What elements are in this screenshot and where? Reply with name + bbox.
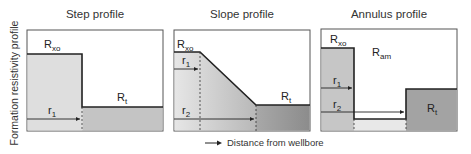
slope-profile-panel: Rxo Rt r1 r2 xyxy=(174,30,310,131)
resistivity-profiles-diagram: Rxo Rt r1 Rxo Rt r1 r2 Rxo Ram Rt r1 r2 xyxy=(0,0,471,154)
annulus-profile-panel: Rxo Ram Rt r1 r2 xyxy=(321,29,457,131)
arrow-right-icon xyxy=(205,140,223,146)
step-profile-panel: Rxo Rt r1 xyxy=(27,30,163,131)
x-axis-legend: Distance from wellbore xyxy=(205,137,324,148)
x-legend-text: Distance from wellbore xyxy=(227,137,324,148)
